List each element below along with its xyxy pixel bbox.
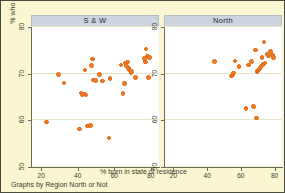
figure-caption: Graphs by Region North or Not [11,181,108,188]
data-point [249,59,254,64]
data-point [62,81,67,86]
x-tick-label-20: 20 [165,172,181,179]
y-tick-50 [161,167,164,168]
y-tick-label-70: 70 [151,68,158,79]
data-point [83,68,88,73]
data-point [89,63,94,68]
data-point [93,78,98,83]
x-tick-20 [173,168,174,171]
gridline-y-60 [31,119,159,120]
y-tick-label-60: 60 [18,114,25,125]
data-point [125,60,130,65]
y-tick-70 [161,74,164,75]
data-point [212,59,217,64]
y-tick-label-50: 50 [151,161,158,172]
x-tick-40 [78,168,79,171]
data-point [251,104,256,109]
panel-title-sw: S & W [31,15,159,26]
data-point [262,40,267,45]
data-point [271,55,276,60]
data-point [233,59,238,64]
y-tick-label-80: 80 [18,21,25,32]
data-point [244,106,249,111]
x-axis-line [164,167,283,168]
data-point [143,60,148,65]
data-point [254,116,259,121]
y-tick-label-70: 70 [18,68,25,79]
x-tick-40 [207,168,208,171]
data-point [263,61,268,66]
gridline-y-80 [164,26,282,27]
x-tick-20 [41,168,42,171]
data-point [260,55,265,60]
data-point [144,47,149,52]
data-point [77,127,82,132]
x-tick-label-80: 80 [267,172,283,179]
data-point [147,55,152,60]
data-point [122,81,127,86]
y-axis-line [164,27,165,167]
x-tick-60 [241,168,242,171]
data-point [231,71,236,76]
plot-area-north [164,26,282,166]
data-point [253,48,258,53]
y-tick-label-80: 80 [151,21,158,32]
x-axis-line [31,167,160,168]
gridline-y-70 [164,73,282,74]
data-point [90,57,95,62]
data-point [146,75,151,80]
data-point [107,136,112,141]
panel-sw: S & W [31,15,159,166]
y-tick-80 [161,27,164,28]
x-tick-label-40: 40 [70,172,86,179]
x-tick-label-40: 40 [199,172,215,179]
data-point [56,72,61,77]
x-tick-label-20: 20 [33,172,49,179]
stata-scatter-figure: % who own home % born in state of reside… [0,0,285,193]
data-point [97,72,102,77]
data-point [121,91,126,96]
data-point [108,76,113,81]
y-tick-label-60: 60 [151,114,158,125]
data-point [44,120,49,125]
x-tick-label-60: 60 [233,172,249,179]
data-point [133,75,138,80]
x-tick-80 [275,168,276,171]
y-tick-60 [161,120,164,121]
x-tick-60 [114,168,115,171]
y-axis-line [31,27,32,167]
x-tick-label-60: 60 [106,172,122,179]
data-point [84,93,89,98]
gridline-y-60 [164,119,282,120]
plot-area-sw [31,26,159,166]
gridline-y-80 [31,26,159,27]
y-tick-50 [28,167,31,168]
panel-title-north: North [164,15,282,26]
panel-north: North [164,15,282,166]
y-tick-60 [28,120,31,121]
y-tick-label-50: 50 [18,161,25,172]
y-tick-70 [28,74,31,75]
data-point [237,64,242,69]
y-axis-title: % who own home [7,0,18,51]
x-tick-label-80: 80 [143,172,159,179]
data-point [100,79,105,84]
gridline-y-70 [31,73,159,74]
data-point [88,123,93,128]
y-tick-80 [28,27,31,28]
